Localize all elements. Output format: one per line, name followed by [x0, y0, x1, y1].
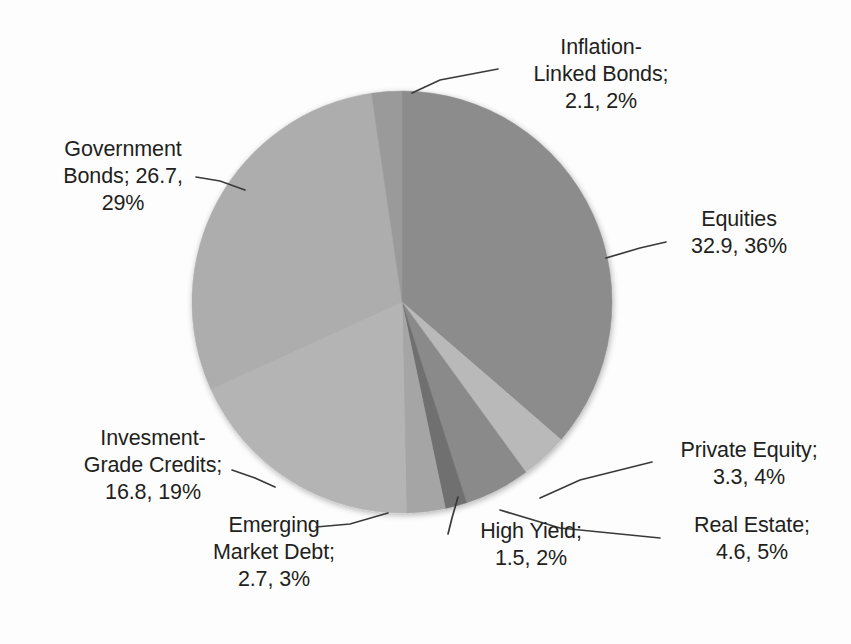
- leader-line-private-equity: [540, 462, 652, 498]
- leader-line-inflation-linked-bonds: [412, 69, 498, 93]
- slice-label-inflation-linked-bonds: Inflation- Linked Bonds; 2.1, 2%: [498, 34, 704, 115]
- slice-label-government-bonds: Government Bonds; 26.7, 29%: [14, 136, 232, 217]
- slice-label-equities: Equities 32.9, 36%: [648, 206, 830, 260]
- slice-label-private-equity: Private Equity; 3.3, 4%: [654, 437, 844, 491]
- pie-chart-figure: Inflation- Linked Bonds; 2.1, 2% Equitie…: [0, 0, 851, 644]
- slice-label-real-estate: Real Estate; 4.6, 5%: [664, 512, 840, 566]
- slice-label-high-yield: High Yield; 1.5, 2%: [446, 518, 616, 572]
- slice-label-emerging-market-debt: Emerging Market Debt; 2.7, 3%: [176, 512, 372, 593]
- slice-label-investment-grade-credits: Invesment- Grade Credits; 16.8, 19%: [34, 425, 272, 506]
